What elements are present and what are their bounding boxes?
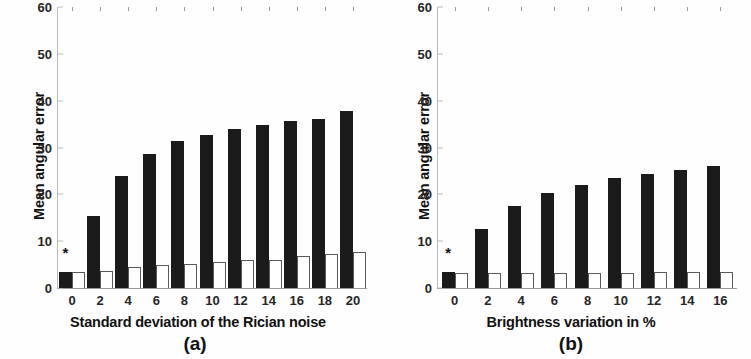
bar-group xyxy=(340,111,366,288)
bar-group xyxy=(541,193,567,288)
x-tick-label: 10 xyxy=(205,288,219,308)
bar-group xyxy=(641,174,667,288)
x-tick-mark xyxy=(521,7,522,11)
y-tick-mark xyxy=(58,241,63,242)
figure-two-bar-charts: Mean angular error 010203040506002468101… xyxy=(0,0,751,359)
x-tick-mark xyxy=(654,7,655,11)
x-axis-label-b: Brightness variation in % xyxy=(375,314,751,330)
y-tick-label: 60 xyxy=(38,0,58,15)
bar-white xyxy=(297,256,310,288)
y-tick-mark xyxy=(58,147,63,148)
y-tick-label: 0 xyxy=(45,281,58,296)
bar-group xyxy=(115,176,141,288)
y-tick-label: 30 xyxy=(418,140,438,155)
x-tick-label: 12 xyxy=(233,288,247,308)
bar-black xyxy=(641,174,654,288)
bar-group xyxy=(707,166,733,288)
plot-area-b: 01020304050600246810121416* xyxy=(437,7,737,289)
x-tick-label: 10 xyxy=(613,288,627,308)
bar-white xyxy=(554,273,567,288)
panel-caption-b: (b) xyxy=(375,333,751,355)
x-tick-mark xyxy=(353,7,354,11)
bar-black xyxy=(674,170,687,288)
y-tick-label: 20 xyxy=(38,187,58,202)
significance-star-marker: * xyxy=(63,245,69,260)
y-tick-mark xyxy=(58,194,63,195)
y-tick-label: 60 xyxy=(418,0,438,15)
x-tick-mark xyxy=(128,7,129,11)
bar-black xyxy=(59,272,72,288)
x-tick-mark xyxy=(100,7,101,11)
bar-white xyxy=(720,272,733,288)
bar-black xyxy=(608,178,621,288)
chart-panel-a: Mean angular error 010203040506002468101… xyxy=(0,0,376,359)
bar-white xyxy=(269,260,282,288)
bar-white xyxy=(213,262,226,288)
bar-white xyxy=(687,272,700,288)
bar-white xyxy=(588,273,601,288)
significance-star-marker: * xyxy=(445,245,451,260)
plot-area-a: 010203040506002468101214161820* xyxy=(57,7,367,289)
x-tick-label: 2 xyxy=(484,288,491,308)
bar-group xyxy=(442,272,468,288)
x-tick-mark xyxy=(325,7,326,11)
x-tick-mark xyxy=(241,7,242,11)
bar-white xyxy=(128,267,141,288)
x-tick-mark xyxy=(588,7,589,11)
y-tick-mark xyxy=(438,100,443,101)
y-tick-mark xyxy=(438,241,443,242)
bar-group xyxy=(87,216,113,288)
bar-black xyxy=(475,229,488,288)
bar-black xyxy=(171,141,184,288)
x-tick-label: 0 xyxy=(451,288,458,308)
bar-group xyxy=(312,119,338,288)
y-tick-label: 20 xyxy=(418,187,438,202)
bar-black xyxy=(87,216,100,288)
bar-white xyxy=(72,272,85,288)
x-tick-mark xyxy=(213,7,214,11)
x-tick-label: 20 xyxy=(346,288,360,308)
bar-black xyxy=(541,193,554,288)
bar-white xyxy=(455,273,468,288)
x-tick-mark xyxy=(488,7,489,11)
bar-white xyxy=(621,273,634,288)
bar-black xyxy=(284,121,297,288)
bar-group xyxy=(608,178,634,288)
bar-group xyxy=(143,154,169,288)
x-tick-mark xyxy=(184,7,185,11)
x-tick-label: 4 xyxy=(125,288,132,308)
bar-black xyxy=(340,111,353,288)
x-tick-mark xyxy=(156,7,157,11)
bar-group xyxy=(256,125,282,288)
y-tick-mark xyxy=(58,100,63,101)
bar-white xyxy=(100,271,113,288)
x-axis-label-a: Standard deviation of the Rician noise xyxy=(0,314,376,330)
y-tick-label: 0 xyxy=(425,281,438,296)
bar-black xyxy=(707,166,720,288)
x-tick-mark xyxy=(269,7,270,11)
y-tick-label: 50 xyxy=(418,46,438,61)
y-tick-label: 50 xyxy=(38,46,58,61)
y-tick-mark xyxy=(58,53,63,54)
x-tick-mark xyxy=(720,7,721,11)
bar-group xyxy=(171,141,197,288)
x-tick-label: 6 xyxy=(153,288,160,308)
bar-black xyxy=(200,135,213,288)
bar-white xyxy=(521,273,534,288)
bar-group xyxy=(475,229,501,288)
bar-black xyxy=(575,185,588,288)
x-tick-label: 16 xyxy=(713,288,727,308)
bar-white xyxy=(353,252,366,288)
bar-white xyxy=(325,254,338,288)
bar-group xyxy=(575,185,601,288)
bar-white xyxy=(184,264,197,288)
x-tick-label: 2 xyxy=(97,288,104,308)
x-tick-label: 14 xyxy=(680,288,694,308)
x-tick-label: 12 xyxy=(647,288,661,308)
bar-group xyxy=(508,206,534,288)
x-tick-label: 8 xyxy=(584,288,591,308)
bar-group xyxy=(200,135,226,288)
bar-white xyxy=(156,265,169,288)
bar-white xyxy=(654,272,667,288)
bar-black xyxy=(312,119,325,288)
